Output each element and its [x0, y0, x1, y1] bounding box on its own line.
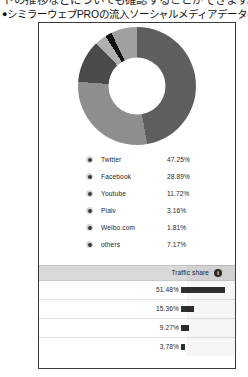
table-body: 51.48%15.36%9.27%3.78% [39, 281, 235, 356]
table-row-bar-track [181, 306, 225, 312]
table-row-bar [181, 325, 189, 331]
legend-item[interactable]: Youtube11.72% [39, 185, 235, 202]
table-header-row: Traffic share i [39, 265, 235, 281]
legend-marker-icon [86, 190, 93, 197]
legend-marker-icon [86, 207, 93, 214]
clipped-body-text-above: ドの推移などについても確認することができます。 [0, 0, 248, 7]
donut-chart-ring[interactable] [78, 27, 196, 145]
donut-chart [39, 27, 235, 149]
legend-item[interactable]: Twitter47.25% [39, 151, 235, 168]
traffic-share-table: Traffic share i 51.48%15.36%9.27%3.78% [39, 265, 235, 356]
legend-item-label: Twitter [101, 151, 121, 168]
donut-chart-hole [109, 58, 166, 115]
legend-item-value: 47.25% [167, 151, 207, 168]
figure-caption: ●シミラーウェブPROの流入ソーシャルメディアデータの例 [2, 7, 248, 22]
legend-item[interactable]: Facebook28.89% [39, 168, 235, 185]
table-row[interactable]: 15.36% [39, 300, 235, 319]
legend-item-label: others [101, 236, 120, 253]
screenshot-frame: Twitter47.25%Facebook28.89%Youtube11.72%… [38, 22, 236, 369]
legend-marker-icon [86, 241, 93, 248]
legend-marker-icon [86, 156, 93, 163]
table-row[interactable]: 9.27% [39, 319, 235, 338]
legend-item-label: Facebook [101, 168, 131, 185]
traffic-share-column-header: Traffic share [171, 266, 209, 280]
legend-item-label: Pialv [101, 202, 116, 219]
legend-item-value: 3.16% [167, 202, 207, 219]
legend-item-value: 1.81% [167, 219, 207, 236]
table-row-bar-track [181, 344, 225, 350]
table-row-bar-track [181, 287, 225, 293]
legend-item-value: 28.89% [167, 168, 207, 185]
table-row[interactable]: 3.78% [39, 338, 235, 356]
legend-item-value: 11.72% [167, 185, 207, 202]
caption-text: シミラーウェブPROの流入ソーシャルメディアデータの例 [7, 8, 248, 20]
legend-item[interactable]: Weibo.com1.81% [39, 219, 235, 236]
table-row-value: 15.36% [156, 300, 179, 318]
table-row-bar [181, 306, 194, 312]
legend-marker-icon [86, 173, 93, 180]
info-icon[interactable]: i [214, 269, 222, 277]
table-row-bar [181, 287, 225, 293]
legend-item-label: Youtube [101, 185, 126, 202]
chart-legend: Twitter47.25%Facebook28.89%Youtube11.72%… [39, 151, 235, 253]
clipped-body-text-line: ドの推移などについても確認することができます。 [3, 0, 248, 7]
legend-item[interactable]: Pialv3.16% [39, 202, 235, 219]
table-row[interactable]: 51.48% [39, 281, 235, 300]
table-row-bar-track [181, 325, 225, 331]
table-row-value: 9.27% [160, 319, 179, 337]
table-row-value: 51.48% [156, 281, 179, 299]
table-row-value: 3.78% [160, 338, 179, 356]
table-row-bar [181, 344, 185, 350]
legend-item-label: Weibo.com [101, 219, 135, 236]
legend-item-value: 7.17% [167, 236, 207, 253]
legend-marker-icon [86, 224, 93, 231]
legend-item[interactable]: others7.17% [39, 236, 235, 253]
